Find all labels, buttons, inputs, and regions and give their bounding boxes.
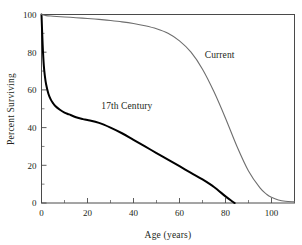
- figure-background: [0, 0, 302, 245]
- curve-label-17th-century: 17th Century: [101, 101, 152, 111]
- y-axis-title: Percent Surviving: [6, 73, 16, 145]
- y-tick-label: 60: [28, 85, 38, 95]
- y-tick-label: 100: [23, 10, 37, 20]
- x-tick-label: 0: [39, 208, 44, 218]
- curve-label-current: Current: [205, 50, 235, 60]
- x-axis-title: Age (years): [145, 230, 192, 241]
- y-tick-label: 80: [28, 48, 38, 58]
- chart-svg: 020406080100 020406080100 17th CenturyCu…: [0, 0, 302, 245]
- x-tick-label: 100: [265, 208, 279, 218]
- y-tick-label: 40: [28, 123, 38, 133]
- y-tick-label: 0: [32, 198, 37, 208]
- y-tick-label: 20: [28, 161, 38, 171]
- x-tick-label: 60: [175, 208, 185, 218]
- survivorship-curve-figure: 020406080100 020406080100 17th CenturyCu…: [0, 0, 302, 245]
- x-tick-label: 40: [129, 208, 139, 218]
- x-tick-label: 20: [83, 208, 93, 218]
- x-tick-label: 80: [221, 208, 231, 218]
